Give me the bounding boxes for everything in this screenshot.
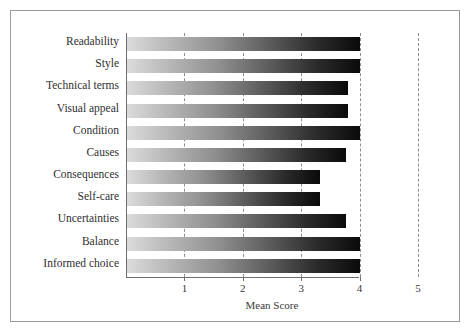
bar-self-care[interactable]	[126, 192, 320, 206]
bar-technical-terms[interactable]	[126, 81, 348, 95]
category-label: Consequences	[53, 168, 119, 180]
bar-informed-choice[interactable]	[126, 259, 360, 273]
category-label: Informed choice	[43, 257, 119, 269]
bar-readability[interactable]	[126, 37, 360, 51]
x-tick-mark-4	[360, 277, 361, 281]
category-label: Balance	[82, 235, 119, 247]
category-label: Readability	[66, 35, 119, 47]
y-axis-line	[126, 33, 127, 278]
x-axis-title: Mean Score	[126, 299, 418, 311]
x-tick-label-3: 3	[286, 282, 316, 294]
figure: Readability Style Technical terms Visual…	[0, 0, 471, 332]
gridline-5	[418, 33, 419, 277]
gridline-4	[360, 33, 361, 277]
bar-balance[interactable]	[126, 237, 360, 251]
x-tick-mark-1	[184, 277, 185, 281]
x-tick-label-5: 5	[403, 282, 433, 294]
bar-style[interactable]	[126, 59, 360, 73]
bar-consequences[interactable]	[126, 170, 320, 184]
category-label: Style	[95, 57, 119, 69]
category-label: Technical terms	[46, 79, 119, 91]
category-label: Uncertainties	[58, 212, 119, 224]
category-label: Condition	[73, 124, 119, 136]
bar-causes[interactable]	[126, 148, 346, 162]
bar-condition[interactable]	[126, 126, 360, 140]
x-tick-label-1: 1	[169, 282, 199, 294]
category-label: Self-care	[78, 190, 120, 202]
x-tick-label-4: 4	[345, 282, 375, 294]
x-tick-mark-2	[243, 277, 244, 281]
x-tick-mark-3	[301, 277, 302, 281]
plot-area: Readability Style Technical terms Visual…	[126, 33, 418, 277]
bar-uncertainties[interactable]	[126, 214, 346, 228]
category-label: Causes	[86, 146, 119, 158]
category-label: Visual appeal	[57, 102, 119, 114]
bar-visual-appeal[interactable]	[126, 104, 348, 118]
x-tick-label-2: 2	[228, 282, 258, 294]
